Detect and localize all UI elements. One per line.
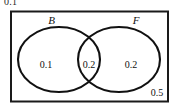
outside-probability: 0.5 bbox=[151, 87, 164, 98]
set-f-only-probability: 0.2 bbox=[125, 59, 138, 70]
set-b-only-probability: 0.1 bbox=[40, 59, 53, 70]
set-b-label: B bbox=[48, 14, 55, 26]
set-f-label: F bbox=[132, 14, 140, 26]
venn-diagram-svg: B F 0.1 0.2 0.2 0.5 bbox=[0, 0, 178, 110]
intersection-probability: 0.2 bbox=[83, 59, 96, 70]
clipped-header-text: 0.1 bbox=[4, 0, 17, 7]
venn-diagram-figure: 0.1 B F 0.1 0.2 0.2 0.5 bbox=[0, 0, 178, 110]
universal-set-rectangle bbox=[11, 12, 168, 102]
